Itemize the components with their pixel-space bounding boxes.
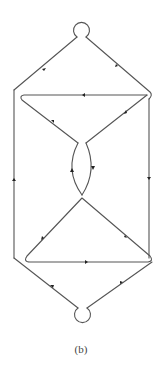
top-left-diagonal: [14, 37, 77, 90]
upper-triangle: [21, 95, 147, 143]
arrow-icon: [82, 93, 85, 97]
upper-triangle-right: [86, 95, 147, 143]
lens-left: [72, 143, 82, 195]
top-right-diagonal: [86, 37, 151, 99]
lens-right: [82, 143, 91, 195]
lower-triangle: [26, 198, 152, 262]
bottom-left-diagonal: [14, 258, 78, 308]
arrow-icon: [147, 177, 151, 180]
arrow-icon: [85, 260, 88, 264]
bottom-right-diagonal: [87, 262, 152, 308]
figure-caption: (b): [0, 343, 162, 355]
arrow-icon: [12, 178, 16, 181]
graph-diagram: [0, 0, 162, 374]
graph-figure: [0, 0, 162, 374]
top-loop: [74, 22, 90, 37]
arrow-icon: [70, 168, 74, 172]
arrow-icon: [42, 68, 46, 71]
bottom-loop: [75, 308, 91, 323]
